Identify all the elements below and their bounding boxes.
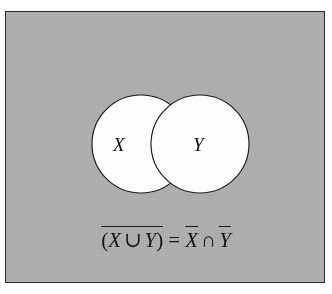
figure-root: X Y (X∪Y) =X∩Y bbox=[0, 0, 332, 294]
left-operand-x: X bbox=[108, 228, 121, 252]
union-operator-icon: ∪ bbox=[121, 228, 145, 252]
right-operand-y-bar: Y bbox=[219, 226, 231, 252]
venn-label-x: X bbox=[113, 135, 125, 154]
left-operand-y: Y bbox=[145, 228, 157, 252]
formula-right-side: X∩Y bbox=[185, 226, 231, 252]
venn-label-y: Y bbox=[193, 135, 204, 154]
formula-left-side: (X∪Y) bbox=[101, 226, 163, 252]
right-operand-x-bar: X bbox=[185, 226, 198, 252]
venn-svg bbox=[88, 91, 244, 197]
formula: (X∪Y) =X∩Y bbox=[6, 226, 326, 252]
equals-sign: = bbox=[163, 228, 185, 252]
intersection-operator-icon: ∩ bbox=[198, 228, 219, 252]
close-paren: ) bbox=[156, 228, 163, 252]
diagram-panel: X Y (X∪Y) =X∩Y bbox=[5, 11, 325, 283]
